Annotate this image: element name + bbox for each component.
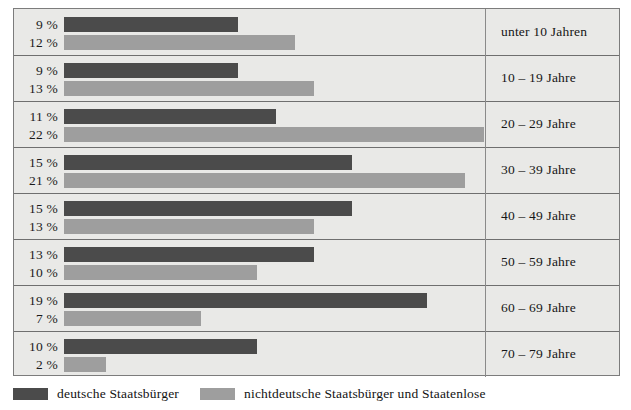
bar-rect: [64, 293, 427, 308]
legend-entry: nichtdeutsche Staatsbürger und Staatenlo…: [200, 386, 486, 402]
chart-frame: 9 %12 %unter 10 Jahren9 %13 %10 – 19 Jah…: [13, 8, 620, 376]
bar-rect: [64, 357, 106, 372]
column-divider: [485, 147, 486, 193]
bar-value-label: 10 %: [14, 337, 58, 356]
bar-rect: [64, 63, 238, 78]
column-divider: [485, 9, 486, 55]
bar-value-label: 15 %: [14, 199, 58, 218]
bar-rect: [64, 201, 352, 216]
bar-value-label: 11 %: [14, 107, 58, 126]
legend-entry: deutsche Staatsbürger: [13, 386, 179, 402]
bar-value-label: 13 %: [14, 245, 58, 264]
bar-rect: [64, 265, 257, 280]
bar-value-label: 2 %: [14, 355, 58, 374]
bar-rect: [64, 173, 465, 188]
legend-label: nichtdeutsche Staatsbürger und Staatenlo…: [244, 386, 486, 402]
bar-value-label: 19 %: [14, 291, 58, 310]
bar-rect: [64, 127, 484, 142]
chart-legend: deutsche Staatsbürgernichtdeutsche Staat…: [13, 386, 620, 404]
legend-label: deutsche Staatsbürger: [57, 386, 179, 402]
bar-line: 9 %: [14, 17, 485, 32]
legend-swatch-icon: [13, 388, 48, 400]
bar-value-label: 10 %: [14, 263, 58, 282]
column-divider: [485, 101, 486, 147]
bars-area: 13 %10 %: [14, 239, 485, 285]
legend-swatch-icon: [200, 388, 235, 400]
bar-rect: [64, 109, 276, 124]
bars-area: 9 %12 %: [14, 9, 485, 55]
chart-row: 9 %12 %unter 10 Jahren: [14, 9, 619, 55]
age-group-label: 70 – 79 Jahre: [501, 331, 576, 377]
bar-value-label: 13 %: [14, 217, 58, 236]
bar-rect: [64, 247, 314, 262]
bar-line: 13 %: [14, 81, 485, 96]
bars-area: 11 %22 %: [14, 101, 485, 147]
chart-row: 15 %13 %40 – 49 Jahre: [14, 193, 619, 239]
bar-value-label: 9 %: [14, 61, 58, 80]
age-group-label: unter 10 Jahren: [501, 9, 587, 55]
bar-rect: [64, 35, 295, 50]
bar-line: 7 %: [14, 311, 485, 326]
age-group-label: 50 – 59 Jahre: [501, 239, 576, 285]
column-divider: [485, 285, 486, 331]
bar-line: 13 %: [14, 219, 485, 234]
bar-value-label: 9 %: [14, 15, 58, 34]
bar-line: 12 %: [14, 35, 485, 50]
chart-row: 9 %13 %10 – 19 Jahre: [14, 55, 619, 101]
bar-line: 9 %: [14, 63, 485, 78]
chart-row: 13 %10 %50 – 59 Jahre: [14, 239, 619, 285]
bar-line: 10 %: [14, 339, 485, 354]
column-divider: [485, 331, 486, 377]
age-group-label: 60 – 69 Jahre: [501, 285, 576, 331]
chart-row: 11 %22 %20 – 29 Jahre: [14, 101, 619, 147]
bar-line: 22 %: [14, 127, 485, 142]
chart-row: 15 %21 %30 – 39 Jahre: [14, 147, 619, 193]
bar-value-label: 22 %: [14, 125, 58, 144]
bar-line: 10 %: [14, 265, 485, 280]
bar-line: 15 %: [14, 201, 485, 216]
bar-line: 19 %: [14, 293, 485, 308]
age-group-label: 30 – 39 Jahre: [501, 147, 576, 193]
bar-rect: [64, 155, 352, 170]
bars-area: 19 %7 %: [14, 285, 485, 331]
bar-value-label: 7 %: [14, 309, 58, 328]
bar-value-label: 15 %: [14, 153, 58, 172]
column-divider: [485, 193, 486, 239]
bar-line: 2 %: [14, 357, 485, 372]
chart-row: 19 %7 %60 – 69 Jahre: [14, 285, 619, 331]
bar-value-label: 13 %: [14, 79, 58, 98]
bars-area: 15 %13 %: [14, 193, 485, 239]
bars-area: 9 %13 %: [14, 55, 485, 101]
bar-rect: [64, 81, 314, 96]
chart-row: 10 %2 %70 – 79 Jahre: [14, 331, 619, 377]
bar-value-label: 12 %: [14, 33, 58, 52]
age-group-label: 40 – 49 Jahre: [501, 193, 576, 239]
bar-rect: [64, 17, 238, 32]
bar-line: 21 %: [14, 173, 485, 188]
bar-line: 11 %: [14, 109, 485, 124]
bars-area: 15 %21 %: [14, 147, 485, 193]
age-group-label: 10 – 19 Jahre: [501, 55, 576, 101]
bar-line: 15 %: [14, 155, 485, 170]
column-divider: [485, 239, 486, 285]
column-divider: [485, 55, 486, 101]
bar-rect: [64, 219, 314, 234]
bar-rect: [64, 339, 257, 354]
bar-value-label: 21 %: [14, 171, 58, 190]
bars-area: 10 %2 %: [14, 331, 485, 377]
age-group-label: 20 – 29 Jahre: [501, 101, 576, 147]
bar-rect: [64, 311, 201, 326]
bar-line: 13 %: [14, 247, 485, 262]
